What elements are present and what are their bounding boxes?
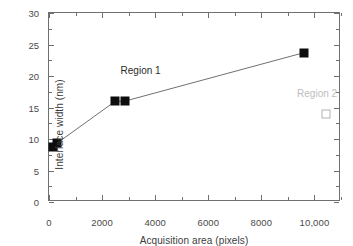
x-tick-minor bbox=[129, 13, 130, 16]
series-line-region-1 bbox=[49, 13, 341, 202]
y-tick-minor bbox=[49, 123, 52, 124]
y-tick-label: 25 bbox=[28, 39, 39, 50]
series-polyline bbox=[53, 53, 304, 148]
x-tick-label: 10,000 bbox=[300, 217, 330, 228]
x-tick-minor bbox=[182, 197, 183, 200]
x-tick-minor bbox=[341, 197, 342, 200]
x-tick-major bbox=[49, 195, 50, 200]
y-tick-minor bbox=[49, 29, 52, 30]
x-tick-minor bbox=[182, 13, 183, 16]
x-tick-major bbox=[155, 13, 156, 18]
y-tick-label: 20 bbox=[28, 71, 39, 82]
y-tick-label: 5 bbox=[34, 165, 39, 176]
y-tick-major bbox=[334, 76, 339, 77]
y-tick-minor bbox=[336, 123, 339, 124]
x-tick-major bbox=[261, 195, 262, 200]
data-point-marker bbox=[111, 97, 120, 106]
x-tick-major bbox=[102, 13, 103, 18]
x-tick-major bbox=[261, 13, 262, 18]
plot-area: Region 1Region 2 0200040006000800010,000… bbox=[48, 12, 340, 201]
y-tick-major bbox=[334, 139, 339, 140]
y-tick-major bbox=[334, 171, 339, 172]
y-tick-minor bbox=[336, 60, 339, 61]
y-tick-label: 30 bbox=[28, 8, 39, 19]
y-tick-minor bbox=[49, 60, 52, 61]
x-tick-minor bbox=[129, 197, 130, 200]
x-tick-label: 6000 bbox=[197, 217, 219, 228]
y-tick-minor bbox=[336, 155, 339, 156]
y-tick-minor bbox=[49, 92, 52, 93]
x-tick-minor bbox=[235, 197, 236, 200]
y-tick-major bbox=[334, 13, 339, 14]
y-tick-major bbox=[49, 13, 54, 14]
y-tick-label: 0 bbox=[34, 197, 39, 208]
x-tick-label: 0 bbox=[46, 217, 51, 228]
x-tick-label: 2000 bbox=[91, 217, 113, 228]
x-tick-major bbox=[314, 195, 315, 200]
x-tick-major bbox=[208, 195, 209, 200]
x-axis-title: Acquisition area (pixels) bbox=[49, 235, 339, 246]
data-point-marker bbox=[299, 48, 308, 57]
data-point-marker bbox=[322, 110, 331, 119]
y-tick-minor bbox=[336, 186, 339, 187]
x-tick-label: 8000 bbox=[251, 217, 273, 228]
x-tick-major bbox=[155, 195, 156, 200]
y-tick-label: 10 bbox=[28, 134, 39, 145]
y-tick-label: 15 bbox=[28, 102, 39, 113]
x-tick-minor bbox=[288, 197, 289, 200]
y-tick-major bbox=[334, 202, 339, 203]
y-tick-major bbox=[334, 45, 339, 46]
x-tick-minor bbox=[341, 13, 342, 16]
y-tick-major bbox=[334, 108, 339, 109]
x-tick-major bbox=[208, 13, 209, 18]
x-tick-minor bbox=[76, 13, 77, 16]
x-tick-label: 4000 bbox=[144, 217, 166, 228]
annotation-region-1: Region 1 bbox=[121, 65, 161, 76]
x-tick-major bbox=[102, 195, 103, 200]
x-tick-minor bbox=[235, 13, 236, 16]
x-tick-minor bbox=[288, 13, 289, 16]
y-tick-minor bbox=[49, 186, 52, 187]
y-tick-minor bbox=[49, 155, 52, 156]
y-axis-title: Interface width (nm) bbox=[54, 35, 65, 215]
y-tick-minor bbox=[336, 29, 339, 30]
annotation-region-2: Region 2 bbox=[297, 88, 337, 99]
data-point-marker bbox=[120, 97, 129, 106]
x-tick-major bbox=[314, 13, 315, 18]
x-tick-minor bbox=[76, 197, 77, 200]
